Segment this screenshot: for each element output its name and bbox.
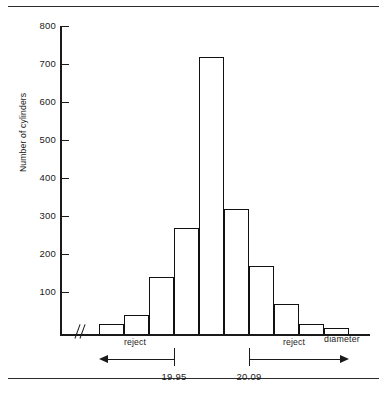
histogram-bar: [274, 304, 299, 334]
reject-arrow-right-head-icon: [340, 355, 349, 363]
reject-label-left: reject: [124, 337, 146, 347]
histogram-bar: [124, 315, 149, 334]
histogram-bar: [199, 57, 224, 334]
reject-label-right: reject: [283, 337, 305, 347]
y-tick-label-700: 700: [16, 59, 56, 69]
x-axis-label: diameter: [324, 334, 360, 344]
histogram-bar: [249, 266, 274, 334]
boundary-tick-20-09: [249, 348, 250, 366]
page-rule-top: [8, 6, 379, 7]
reject-arrow-right-line: [249, 359, 340, 360]
y-tick-label-100: 100: [16, 287, 56, 297]
histogram-bar: [174, 228, 199, 334]
y-tick-label-300: 300: [16, 211, 56, 221]
boundary-tick-19-95: [174, 348, 175, 366]
y-tick-label-800: 800: [16, 21, 56, 31]
y-tick-label-600: 600: [16, 97, 56, 107]
boundary-label-20-09: 20.09: [237, 371, 262, 382]
histogram-plot: Number of cylinders 800 700 600 500 400 …: [60, 22, 370, 334]
histogram-bar: [224, 209, 249, 334]
y-tick-label-500: 500: [16, 135, 56, 145]
histogram-bar: [149, 277, 174, 334]
figure-root: Number of cylinders 800 700 600 500 400 …: [0, 0, 387, 394]
boundary-label-19-95: 19.95: [162, 371, 187, 382]
histogram-bar: [299, 324, 324, 334]
histogram-bar: [99, 324, 124, 334]
y-tick-label-400: 400: [16, 173, 56, 183]
histogram-bars: [60, 22, 370, 334]
y-tick-label-200: 200: [16, 249, 56, 259]
reject-arrow-left-head-icon: [99, 355, 108, 363]
reject-arrow-left-line: [108, 359, 174, 360]
axis-annotations: 19.95 20.09 reject reject diameter: [60, 334, 370, 394]
